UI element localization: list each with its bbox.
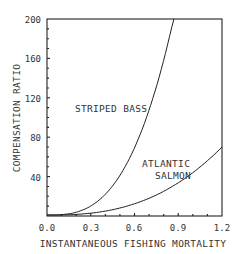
striped-bass-curve [47,19,174,215]
x-tick-label: 0.6 [126,223,142,233]
y-tick-label: 80 [30,133,41,143]
y-axis-title: COMPENSATION RATIO [11,64,22,172]
x-tick-label: 0.3 [83,223,99,233]
x-tick-label: 1.2 [214,223,230,233]
plot-frame [47,19,222,216]
x-axis-title: INSTANTANEOUS FISHING MORTALITY [40,238,227,249]
atlantic-salmon-label-line1: ATLANTIC [142,158,190,169]
atlantic-salmon-curve [47,147,222,215]
compensation-ratio-chart: 200 160 120 80 40 0.0 0.3 0.6 0.9 1.2 IN… [0,0,246,254]
x-tick-label: 0.0 [39,223,55,233]
x-tick-label: 0.9 [170,223,186,233]
y-tick-label: 160 [25,54,41,64]
atlantic-salmon-label-line2: SALMON [155,170,191,181]
y-tick-label: 40 [30,173,41,183]
striped-bass-label: STRIPED BASS [75,103,147,114]
y-tick-label: 200 [25,15,41,25]
y-tick-label: 120 [25,94,41,104]
